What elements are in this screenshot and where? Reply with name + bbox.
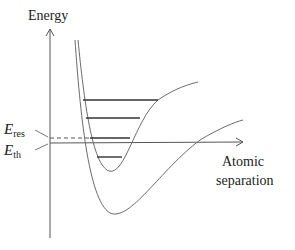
e-th-label: Eth bbox=[3, 142, 21, 160]
separation-label-line1: Atomic bbox=[222, 154, 264, 169]
e-res-label: Eres bbox=[3, 121, 25, 139]
e-th-pointer bbox=[35, 144, 48, 150]
e-res-pointer bbox=[35, 130, 48, 137]
energy-axis-label: Energy bbox=[28, 8, 68, 23]
separation-axis bbox=[50, 142, 243, 143]
potential-energy-diagram: Energy Atomic separation Eres Eth bbox=[0, 0, 295, 250]
upper-potential-curve bbox=[78, 40, 198, 171]
separation-label-line2: separation bbox=[216, 173, 274, 188]
